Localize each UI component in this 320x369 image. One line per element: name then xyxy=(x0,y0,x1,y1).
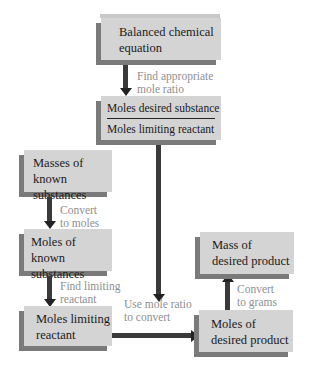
arrow-use-ratio-head-icon xyxy=(191,330,199,342)
box-moles-known: Moles of known substances xyxy=(24,229,112,271)
label-convert-grams: Convert to grams xyxy=(237,283,277,309)
arrow-convert-moles-line xyxy=(47,197,52,222)
box-mole-ratio: Moles desired substance Moles limiting r… xyxy=(101,96,221,140)
arrow-use-ratio-line xyxy=(112,333,192,338)
box-mass-product: Mass of desired product xyxy=(200,232,294,274)
fraction-numerator: Moles desired substance xyxy=(107,100,219,116)
box-moles-limiting: Moles limiting reactant xyxy=(24,306,112,346)
arrow-find-ratio-line xyxy=(123,65,128,89)
box-balanced-equation-line1: Balanced chemical xyxy=(119,24,214,40)
label-use-ratio: Use mole ratio to convert xyxy=(124,298,192,324)
arrow-convert-moles-head-icon xyxy=(44,221,56,229)
label-find-ratio: Find appropriate mole ratio xyxy=(137,70,213,96)
fraction-denominator: Moles limiting reactant xyxy=(107,121,214,137)
arrow-ratio-down-line xyxy=(156,145,161,295)
label-convert-moles: Convert to moles xyxy=(60,204,99,230)
arrow-find-ratio-head-icon xyxy=(120,88,132,96)
fraction-bar xyxy=(107,118,215,119)
box-masses-known: Masses of known substances xyxy=(24,150,112,192)
arrow-find-limiting-line xyxy=(47,276,52,300)
label-find-limiting: Find limiting reactant xyxy=(60,280,120,306)
arrow-convert-grams-head-icon xyxy=(222,274,234,282)
box-balanced-equation: Balanced chemical equation xyxy=(101,18,221,60)
box-balanced-equation-line2: equation xyxy=(119,40,214,56)
box-moles-product: Moles of desired product xyxy=(199,310,293,352)
arrow-convert-grams-line xyxy=(225,281,230,310)
